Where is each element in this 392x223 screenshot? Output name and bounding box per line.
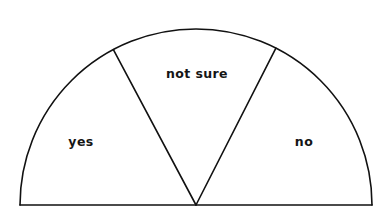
semicircle-diagram: yes not sure no: [0, 0, 392, 223]
sector-label-not-sure: not sure: [166, 66, 228, 81]
sector-label-no: no: [295, 134, 313, 149]
sector-label-yes: yes: [68, 134, 93, 149]
sector-fills: [20, 29, 372, 205]
semicircle-svg: [0, 0, 392, 223]
